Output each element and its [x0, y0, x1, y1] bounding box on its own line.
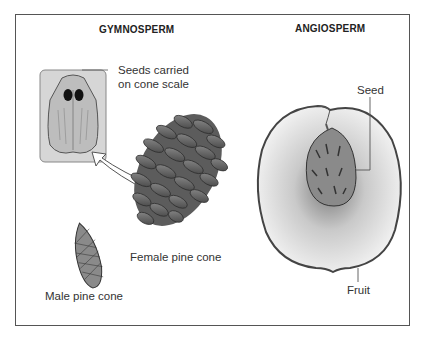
label-female-pine-cone: Female pine cone	[130, 251, 221, 264]
label-on-cone-scale: on cone scale	[118, 78, 189, 91]
label-male-pine-cone: Male pine cone	[45, 290, 123, 303]
female-pine-cone	[110, 96, 245, 245]
label-fruit: Fruit	[347, 284, 370, 297]
label-seed: Seed	[357, 84, 384, 97]
male-pine-cone	[68, 220, 107, 290]
label-seeds-carried: Seeds carried	[118, 64, 189, 77]
cone-scale-inset	[40, 70, 108, 162]
fruit-cross-section	[258, 97, 401, 282]
